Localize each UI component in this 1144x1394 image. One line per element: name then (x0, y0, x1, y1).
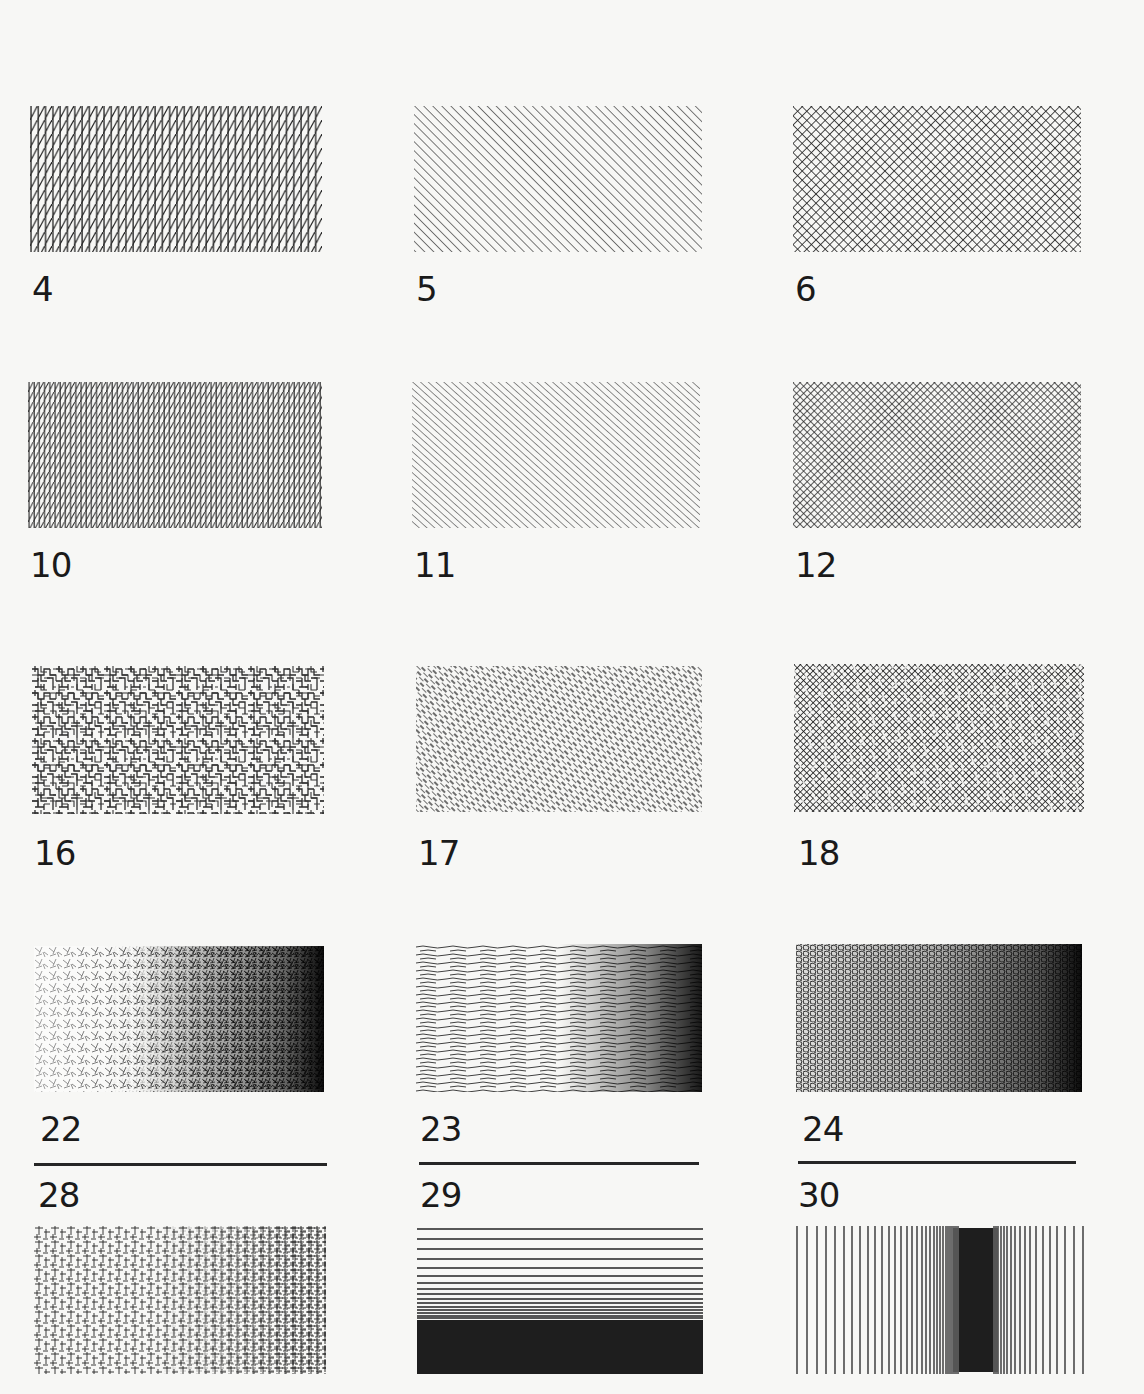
sample-label: 28 (38, 1178, 79, 1212)
sample-label: 22 (40, 1112, 81, 1146)
pattern-swatch-17 (416, 666, 702, 812)
divider-line (419, 1162, 699, 1165)
sample-label: 17 (418, 836, 459, 870)
pattern-swatch-16 (32, 666, 324, 814)
pattern-swatch-23 (416, 944, 702, 1092)
pattern-swatch-6 (793, 106, 1081, 252)
divider-line (798, 1161, 1076, 1164)
sample-label: 30 (798, 1178, 839, 1212)
pattern-swatch-30 (795, 1226, 1085, 1374)
divider-line (34, 1163, 327, 1166)
pattern-swatch-12 (793, 382, 1081, 528)
sample-label: 6 (795, 272, 816, 306)
pattern-swatch-22 (34, 946, 324, 1092)
sample-label: 11 (414, 548, 455, 582)
sample-label: 29 (420, 1178, 461, 1212)
sample-label: 24 (802, 1112, 843, 1146)
pattern-swatch-28 (34, 1226, 326, 1374)
sample-label: 4 (32, 272, 53, 306)
pattern-swatch-18 (794, 664, 1084, 812)
pattern-swatch-10 (28, 382, 322, 528)
sample-label: 18 (798, 836, 839, 870)
pattern-swatch-29 (417, 1226, 703, 1374)
pattern-swatch-5 (414, 106, 702, 252)
sample-label: 23 (420, 1112, 461, 1146)
pattern-swatch-4 (30, 106, 322, 252)
sample-label: 10 (30, 548, 71, 582)
pattern-swatch-11 (412, 382, 700, 528)
sample-label: 12 (795, 548, 836, 582)
sample-label: 16 (34, 836, 75, 870)
sample-label: 5 (416, 272, 437, 306)
pattern-swatch-24 (796, 944, 1082, 1092)
